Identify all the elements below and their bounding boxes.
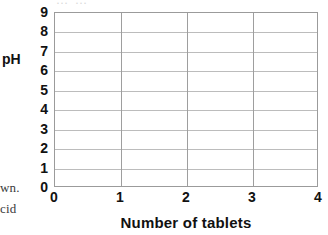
gridline-vertical: [121, 13, 122, 186]
y-tick-label: 7: [34, 44, 48, 58]
gridline-vertical: [187, 13, 188, 186]
y-tick-label: 3: [34, 122, 48, 136]
gridline-horizontal: [55, 130, 317, 131]
y-tick-label: 4: [34, 102, 48, 116]
gridline-horizontal: [55, 71, 317, 72]
x-tick-label: 2: [176, 190, 196, 204]
gridline-horizontal: [55, 110, 317, 111]
gridline-horizontal: [55, 91, 317, 92]
gridline-horizontal: [55, 169, 317, 170]
x-tick-label: 0: [44, 190, 64, 204]
x-tick-label: 3: [242, 190, 262, 204]
y-tick-label: 2: [34, 141, 48, 155]
gridline-horizontal: [55, 32, 317, 33]
y-tick-label: 8: [34, 24, 48, 38]
y-tick-label: 1: [34, 161, 48, 175]
y-tick-label: 5: [34, 83, 48, 97]
plot-area: [54, 12, 318, 187]
gridline-vertical: [253, 13, 254, 186]
y-tick-label: 9: [34, 5, 48, 19]
gridline-horizontal: [55, 52, 317, 53]
x-tick-label: 4: [308, 190, 328, 204]
gridline-horizontal: [55, 149, 317, 150]
x-axis-title: Number of tablets: [54, 214, 318, 231]
y-tick-label: 6: [34, 63, 48, 77]
ph-vs-tablets-grid: pH 0123456789 01234 Number of tablets: [0, 0, 328, 235]
y-axis-title: pH: [2, 52, 21, 66]
x-tick-label: 1: [110, 190, 130, 204]
